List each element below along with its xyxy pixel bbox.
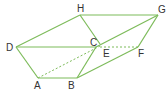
- label-C: C: [90, 37, 97, 48]
- label-A: A: [34, 80, 41, 91]
- label-F: F: [138, 48, 144, 59]
- dashed-edges: [38, 46, 138, 78]
- label-B: B: [68, 80, 75, 91]
- label-D: D: [6, 42, 13, 53]
- label-G: G: [158, 4, 166, 15]
- edge-AD: [16, 47, 38, 78]
- edge-DH: [16, 15, 80, 47]
- label-E: E: [103, 48, 110, 59]
- edge-AE: [38, 46, 100, 78]
- label-H: H: [77, 3, 84, 14]
- diagram-canvas: H G D C E F A B: [0, 0, 168, 94]
